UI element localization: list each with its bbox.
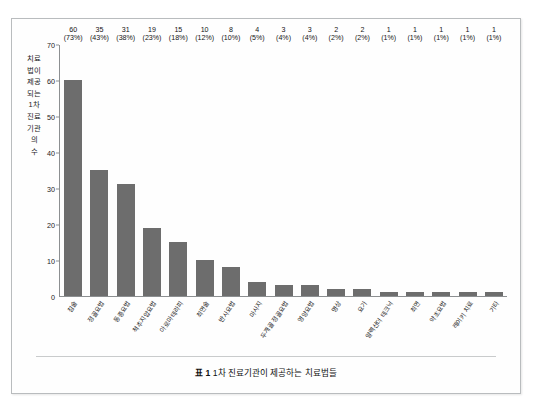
bar-item[interactable]: 3(4%) — [297, 45, 323, 296]
x-axis-label-slot: 정골요법 — [86, 298, 112, 350]
x-axis-tick-label: 최면 — [409, 300, 422, 314]
caption-number: 표 1 — [195, 368, 210, 378]
bar-percent: (5%) — [250, 35, 265, 43]
x-axis-tick-label: 약초요법 — [428, 300, 447, 324]
bar-percent: (4%) — [302, 35, 317, 43]
caption-text: 1차 진료기관이 제공하는 치료법들 — [213, 368, 337, 378]
figure-caption: 표 1 1차 진료기관이 제공하는 치료법들 — [12, 366, 520, 378]
bar-rect[interactable] — [432, 292, 450, 296]
y-axis-tick-mark — [56, 153, 59, 154]
bar-value-label: 15(18%) — [169, 27, 188, 43]
bar-value-label: 2(2%) — [329, 27, 344, 43]
x-axis-label-slot: 침술 — [60, 298, 86, 350]
bar-value-label: 60(73%) — [64, 27, 83, 43]
bar-item[interactable]: 35(43%) — [86, 45, 112, 296]
bar-chart: 치료법이 제공되는 1차 진료기관의 수 010203040506070 60(… — [12, 19, 520, 349]
x-axis-label-slot: 기타 — [482, 298, 508, 350]
x-axis-tick-label: 침술 — [66, 300, 79, 314]
plot-area: 010203040506070 60(73%)35(43%)31(38%)19(… — [59, 45, 507, 297]
bar-rect[interactable] — [117, 184, 135, 296]
y-axis-tick-mark — [56, 81, 59, 82]
bar-percent: (12%) — [195, 35, 214, 43]
bar-percent: (1%) — [381, 35, 396, 43]
x-axis-tick-label: 정골요법 — [86, 300, 105, 324]
x-axis-tick-label: 명상 — [330, 300, 343, 314]
caption-divider — [36, 356, 496, 357]
y-axis-tick-mark — [56, 189, 59, 190]
bar-item[interactable]: 10(12%) — [191, 45, 217, 296]
x-axis-tick-label: 마사지 — [247, 300, 263, 319]
bar-rect[interactable] — [248, 282, 266, 296]
bar-value-label: 1(1%) — [460, 27, 475, 43]
x-axis-tick-label: 기타 — [488, 300, 501, 314]
bar-percent: (43%) — [90, 35, 109, 43]
bar-percent: (23%) — [143, 35, 162, 43]
bar-item[interactable]: 2(2%) — [323, 45, 349, 296]
y-axis-tick-mark — [56, 261, 59, 262]
bar-rect[interactable] — [169, 242, 187, 296]
y-axis-tick-label: 0 — [51, 293, 59, 302]
bar-percent: (4%) — [276, 35, 291, 43]
bar-item[interactable]: 1(1%) — [402, 45, 428, 296]
bar-item[interactable]: 3(4%) — [270, 45, 296, 296]
bar-percent: (73%) — [64, 35, 83, 43]
bar-percent: (1%) — [486, 35, 501, 43]
bar-rect[interactable] — [143, 228, 161, 296]
bar-value-label: 3(4%) — [276, 27, 291, 43]
x-axis-label-slot: 영양요법 — [297, 298, 323, 350]
bar-item[interactable]: 4(5%) — [244, 45, 270, 296]
bar-rect[interactable] — [275, 285, 293, 296]
x-axis-tick-label: 요가 — [356, 300, 369, 314]
bar-percent: (18%) — [169, 35, 188, 43]
bar-rect[interactable] — [380, 292, 398, 296]
bar-value-label: 19(23%) — [143, 27, 162, 43]
bar-rect[interactable] — [222, 267, 240, 296]
x-axis-tick-label: 동종요법 — [112, 300, 131, 324]
x-axis-tick-label: 최면술 — [195, 300, 211, 319]
bar-rect[interactable] — [64, 80, 82, 296]
bar-percent: (38%) — [116, 35, 135, 43]
bar-item[interactable]: 1(1%) — [481, 45, 507, 296]
bar-item[interactable]: 1(1%) — [376, 45, 402, 296]
figure-page: 치료법이 제공되는 1차 진료기관의 수 010203040506070 60(… — [11, 18, 521, 394]
bar-item[interactable]: 1(1%) — [454, 45, 480, 296]
x-axis-label-slot: 알렉산더 테크닉 — [376, 298, 402, 350]
bar-item[interactable]: 2(2%) — [349, 45, 375, 296]
bar-rect[interactable] — [353, 289, 371, 296]
y-axis-tick-mark — [56, 225, 59, 226]
bar-value-label: 1(1%) — [408, 27, 423, 43]
bar-percent: (1%) — [408, 35, 423, 43]
bar-rect[interactable] — [459, 292, 477, 296]
bar-value-label: 1(1%) — [486, 27, 501, 43]
x-axis-tick-label: 영양요법 — [297, 300, 316, 324]
bar-percent: (2%) — [355, 35, 370, 43]
bar-rect[interactable] — [327, 289, 345, 296]
x-axis-label-slot: 최면술 — [192, 298, 218, 350]
x-axis-label-slot: 반사요법 — [218, 298, 244, 350]
bar-value-label: 1(1%) — [434, 27, 449, 43]
x-axis-line — [59, 296, 507, 297]
bar-item[interactable]: 15(18%) — [165, 45, 191, 296]
bar-rect[interactable] — [485, 292, 503, 296]
bar-rect[interactable] — [196, 260, 214, 296]
x-axis-tick-label: 반사요법 — [218, 300, 237, 324]
bar-item[interactable]: 8(10%) — [218, 45, 244, 296]
bar-value-label: 2(2%) — [355, 27, 370, 43]
bar-rect[interactable] — [90, 170, 108, 296]
bar-percent: (10%) — [221, 35, 240, 43]
bar-item[interactable]: 60(73%) — [60, 45, 86, 296]
x-axis-label-slot: 명상 — [324, 298, 350, 350]
bar-percent: (1%) — [460, 35, 475, 43]
y-axis-tick-mark — [56, 117, 59, 118]
bar-series: 60(73%)35(43%)31(38%)19(23%)15(18%)10(12… — [60, 45, 507, 296]
y-axis-title: 치료법이 제공되는 1차 진료기관의 수 — [26, 53, 42, 285]
bar-value-label: 8(10%) — [221, 27, 240, 43]
bar-item[interactable]: 31(38%) — [113, 45, 139, 296]
x-axis-labels: 침술정골요법동종요법척추지압요법아로마테라피최면술반사요법마사지두개골 정골요법… — [60, 298, 508, 350]
bar-item[interactable]: 19(23%) — [139, 45, 165, 296]
bar-item[interactable]: 1(1%) — [428, 45, 454, 296]
x-axis-label-slot: 두개골 정골요법 — [271, 298, 297, 350]
bar-rect[interactable] — [301, 285, 319, 296]
x-axis-label-slot: 최면 — [403, 298, 429, 350]
bar-rect[interactable] — [406, 292, 424, 296]
